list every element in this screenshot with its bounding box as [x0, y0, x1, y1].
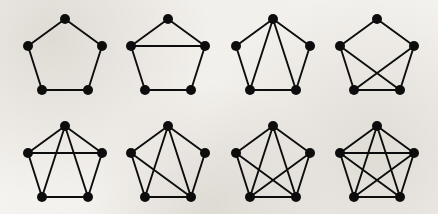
graph-vertex-right-mid — [409, 41, 419, 51]
figure-container — [0, 0, 438, 214]
graph-vertex-bottom-right — [186, 85, 196, 95]
graph-vertex-bottom-right — [186, 192, 196, 202]
graph-vertex-left-mid — [126, 41, 136, 51]
graph-vertex-top — [268, 121, 278, 131]
graph-vertex-left-mid — [23, 41, 33, 51]
pentagon-graph-series-svg — [0, 0, 438, 214]
graph-vertex-right-mid — [305, 41, 315, 51]
graph-vertex-bottom-left — [349, 85, 359, 95]
graph-vertex-top — [163, 14, 173, 24]
graph-vertex-top — [372, 14, 382, 24]
graph-vertex-bottom-right — [83, 85, 93, 95]
graph-vertex-bottom-left — [140, 192, 150, 202]
graph-vertex-right-mid — [305, 148, 315, 158]
graph-vertex-bottom-right — [291, 192, 301, 202]
graph-vertex-bottom-left — [37, 192, 47, 202]
graph-vertex-right-mid — [97, 148, 107, 158]
graph-vertex-left-mid — [23, 148, 33, 158]
graph-vertex-right-mid — [200, 41, 210, 51]
graph-vertex-right-mid — [97, 41, 107, 51]
graph-vertex-left-mid — [126, 148, 136, 158]
graph-vertex-right-mid — [200, 148, 210, 158]
graph-vertex-bottom-right — [291, 85, 301, 95]
graph-vertex-bottom-left — [245, 85, 255, 95]
graph-vertex-top — [268, 14, 278, 24]
graph-vertex-bottom-left — [245, 192, 255, 202]
graph-vertex-bottom-left — [349, 192, 359, 202]
graph-vertex-bottom-right — [395, 85, 405, 95]
graph-vertex-top — [60, 14, 70, 24]
graph-vertex-bottom-left — [140, 85, 150, 95]
graph-vertex-right-mid — [409, 148, 419, 158]
graph-vertex-left-mid — [335, 41, 345, 51]
graph-vertex-left-mid — [231, 41, 241, 51]
graph-vertex-top — [163, 121, 173, 131]
graph-vertex-bottom-right — [83, 192, 93, 202]
graph-vertex-bottom-right — [395, 192, 405, 202]
figure-background — [0, 0, 438, 214]
graph-vertex-bottom-left — [37, 85, 47, 95]
graph-vertex-left-mid — [335, 148, 345, 158]
graph-vertex-top — [60, 121, 70, 131]
graph-vertex-left-mid — [231, 148, 241, 158]
graph-vertex-top — [372, 121, 382, 131]
